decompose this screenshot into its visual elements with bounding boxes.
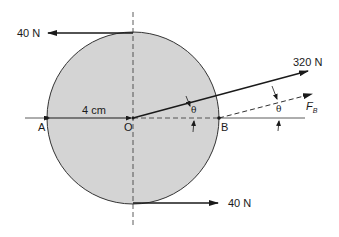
label-angle-inner: θ [191,105,196,115]
label-point-b: B [221,121,228,133]
label-point-a: A [38,121,46,133]
label-force-top: 40 N [17,27,40,39]
label-angle-outer: θ [276,104,281,114]
label-fb: FB [306,100,318,114]
point-o-dot [132,117,135,120]
label-point-o: O [124,121,133,133]
point-b-dot [217,116,221,120]
force-arrow-fb [219,94,312,118]
angle-arrow-outer-top [272,86,277,99]
label-force-bottom: 40 N [228,197,251,209]
force-diagram: 40 N 40 N 320 N FB 4 cm A O B θ θ [0,0,339,237]
label-radius: 4 cm [82,104,106,116]
angle-arrow-outer-bottom [278,121,279,131]
point-a-dot [45,116,49,120]
label-force-320n: 320 N [293,56,322,68]
